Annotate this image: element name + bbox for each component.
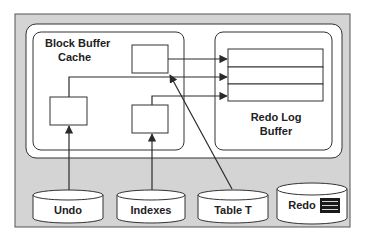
sga-diagram: Block Buffer Cache Redo Log Buffer Undo … — [0, 0, 365, 246]
datafile-undo-label: Undo — [54, 204, 82, 216]
redo-entry-3 — [228, 84, 323, 101]
block-buffer-cache-label-1: Block Buffer — [45, 37, 111, 49]
redo-log-buffer-label-2: Buffer — [260, 125, 293, 137]
cache-block-left — [50, 97, 87, 125]
block-buffer-cache-label-2: Cache — [58, 51, 91, 63]
cache-block-center — [132, 105, 168, 133]
redo-log-buffer: Redo Log Buffer — [215, 32, 332, 150]
datafile-undo: Undo — [33, 190, 103, 223]
redo-entry-2 — [228, 67, 323, 84]
redo-entry-1 — [228, 49, 323, 67]
redo-log-buffer-label-1: Redo Log — [251, 111, 302, 123]
datafile-table-t-label: Table T — [214, 204, 252, 216]
datafile-redo: Redo — [277, 183, 347, 224]
log-lines-icon — [320, 198, 340, 213]
datafile-indexes-label: Indexes — [131, 204, 172, 216]
datafile-redo-label: Redo — [288, 199, 316, 211]
block-buffer-cache: Block Buffer Cache — [33, 32, 184, 150]
datafile-table-t: Table T — [198, 190, 268, 223]
datafile-indexes: Indexes — [117, 190, 185, 223]
cache-block-top — [132, 45, 168, 73]
